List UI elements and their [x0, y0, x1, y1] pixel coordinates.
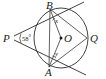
- point-label-B: B: [46, 0, 53, 11]
- angle-arc-p: [20, 34, 21, 44]
- centre-dot: [60, 37, 63, 40]
- point-label-O: O: [64, 32, 72, 44]
- angle-label-A: y: [54, 50, 59, 58]
- point-label-P: P: [2, 32, 10, 44]
- point-label-Q: Q: [90, 32, 98, 44]
- angle-label-P: 58°: [22, 33, 32, 42]
- point-label-A: A: [44, 66, 52, 78]
- degree-symbol-P: °: [29, 33, 32, 40]
- chord-ba: [49, 9, 50, 67]
- angle-label-B: x: [54, 17, 59, 25]
- geometry-figure: P B A Q O 58° x y: [0, 0, 106, 79]
- figure-canvas: P B A Q O 58° x y: [0, 0, 106, 79]
